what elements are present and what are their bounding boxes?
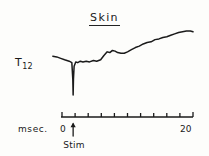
x-axis-tick-label-min: 0 [60,124,66,134]
stim-arrow-head [71,123,76,128]
stimulus-label: Stim [63,140,85,150]
x-axis-unit-label: msec. [18,124,48,134]
skin-t12-figure: Skin T12 msec. 0 20 Stim [0,0,209,156]
x-axis-tick-label-max: 20 [180,124,191,134]
